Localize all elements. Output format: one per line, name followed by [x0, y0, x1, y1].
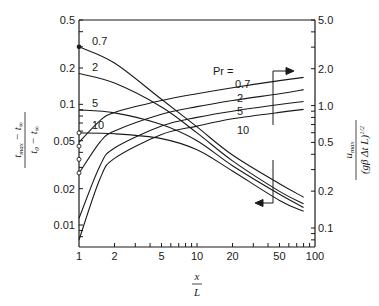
chart: 1251020501000.50.20.10.050.020.015.02.01…: [0, 0, 379, 306]
x-tick-label: 50: [273, 250, 285, 262]
curve-label-velocity: 2: [237, 92, 243, 104]
svg-text:x: x: [194, 270, 200, 282]
curve-line: [79, 133, 304, 211]
y-right-tick-label: 0.5: [318, 136, 333, 148]
curve-line: [79, 74, 304, 204]
curve-labels: 0.725100.72510: [92, 35, 250, 136]
x-axis-title: x L: [192, 270, 202, 298]
marker-circle-icon: [77, 144, 81, 148]
y-left-tick-label: 0.01: [54, 219, 75, 231]
svg-text:(gβ Δt L)1/2: (gβ Δt L)1/2: [358, 125, 371, 174]
y-left-tick-label: 0.5: [60, 14, 75, 26]
x-tick-label: 20: [226, 250, 238, 262]
x-tick-label: 2: [111, 250, 117, 262]
y-left-tick-label: 0.2: [60, 62, 75, 74]
curve-label-velocity: 0.7: [235, 78, 250, 90]
y-left-tick-label: 0.05: [54, 135, 75, 147]
left-axis-title: tmax − t∞ t0 − t∞: [11, 112, 41, 168]
curve-label-velocity: 5: [237, 105, 243, 117]
curve-label-temperature: 2: [92, 61, 98, 73]
svg-text:tmax − t∞: tmax − t∞: [11, 122, 25, 158]
axis-tick-labels: 1251020501000.50.20.10.050.020.015.02.01…: [54, 14, 334, 262]
y-left-tick-label: 0.02: [54, 183, 75, 195]
y-left-tick-label: 0.1: [60, 98, 75, 110]
right-axis-title: umax (gβ Δt L)1/2: [342, 120, 371, 180]
y-right-tick-label: 1.0: [318, 100, 333, 112]
svg-text:L: L: [193, 286, 200, 298]
marker-circle-icon: [77, 157, 81, 161]
curves: [77, 45, 304, 240]
marker-circle-icon: [77, 171, 81, 175]
curve-line: [79, 110, 304, 207]
curve-line: [79, 47, 304, 197]
y-right-tick-label: 0.2: [318, 185, 333, 197]
x-tick-label: 10: [191, 250, 203, 262]
svg-text:t0 − t∞: t0 − t∞: [27, 126, 41, 154]
x-tick-label: 5: [158, 250, 164, 262]
x-tick-label: 1: [76, 250, 82, 262]
marker-dot-icon: [77, 45, 81, 49]
arrow-right-icon: [273, 68, 294, 126]
x-tick-label: 100: [306, 250, 324, 262]
curve-label-temperature: 10: [92, 119, 104, 131]
arrow-left-icon: [255, 160, 273, 207]
curve-line: [79, 77, 304, 142]
curve-line: [79, 90, 304, 174]
curve-label-velocity: 10: [237, 124, 249, 136]
y-right-tick-label: 0.1: [318, 222, 333, 234]
curve-label-temperature: 5: [92, 97, 98, 109]
y-right-tick-label: 2.0: [318, 63, 333, 75]
y-right-tick-label: 5.0: [318, 14, 333, 26]
legend-title: Pr =: [213, 65, 233, 77]
svg-text:umax: umax: [342, 141, 356, 159]
curve-label-temperature: 0.7: [92, 35, 107, 47]
marker-circle-icon: [77, 131, 81, 135]
